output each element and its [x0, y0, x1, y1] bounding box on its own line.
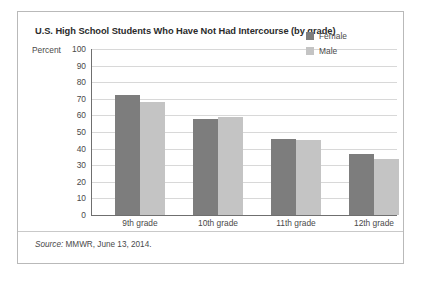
legend-item-female[interactable]: Female — [306, 29, 347, 42]
y-tick-label: 0 — [52, 210, 86, 220]
bar-male[interactable] — [296, 140, 321, 215]
y-tick-label: 30 — [52, 160, 86, 170]
gridline — [92, 82, 397, 83]
legend-swatch-icon — [306, 32, 314, 40]
chart-card: U.S. High School Students Who Have Not H… — [17, 11, 404, 264]
gridline — [92, 49, 397, 50]
y-tick-label: 10 — [52, 193, 86, 203]
legend-label: Female — [319, 31, 347, 41]
y-tick-label: 50 — [52, 127, 86, 137]
source-text: MMWR, June 13, 2014. — [66, 240, 152, 249]
y-tick-label: 60 — [52, 110, 86, 120]
bar-female[interactable] — [271, 139, 296, 215]
y-axis-tick-labels: 100 90 80 70 60 50 40 30 20 10 0 — [50, 49, 86, 215]
footer-divider — [18, 231, 403, 232]
bar-female[interactable] — [349, 154, 374, 215]
x-tick-label: 9th grade — [101, 218, 179, 228]
bar-male[interactable] — [374, 159, 399, 215]
chart-legend: Female Male — [306, 29, 347, 59]
x-tick-label: 10th grade — [179, 218, 257, 228]
plot-wrapper: 100 90 80 70 60 50 40 30 20 10 0 — [18, 12, 405, 265]
source-note: Source: MMWR, June 13, 2014. — [35, 240, 152, 249]
y-tick-label: 20 — [52, 177, 86, 187]
y-tick-label: 70 — [52, 94, 86, 104]
y-tick-label: 90 — [52, 61, 86, 71]
plot-area: 9th grade 10th grade 11th grade 12th gra… — [91, 49, 397, 216]
x-tick-label: 12th grade — [335, 218, 413, 228]
legend-item-male[interactable]: Male — [306, 44, 347, 57]
bar-male[interactable] — [140, 102, 165, 215]
source-prefix: Source: — [35, 240, 63, 249]
x-tick-label: 11th grade — [257, 218, 335, 228]
y-tick-label: 40 — [52, 144, 86, 154]
gridline — [92, 66, 397, 67]
bar-male[interactable] — [218, 117, 243, 215]
bar-female[interactable] — [115, 95, 140, 215]
y-tick-label: 100 — [52, 44, 86, 54]
legend-swatch-icon — [306, 47, 314, 55]
legend-label: Male — [319, 46, 337, 56]
bar-female[interactable] — [193, 119, 218, 215]
y-tick-label: 80 — [52, 77, 86, 87]
